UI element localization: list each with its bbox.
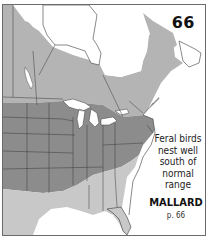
plate-number: 66 — [172, 13, 195, 32]
species-name: MALLARD — [143, 196, 206, 209]
range-map-plate: 66 Feral birds nest well south of normal… — [2, 4, 206, 236]
note-line: nest well — [151, 145, 205, 157]
note-line: Feral birds — [151, 133, 205, 145]
note-line: normal range — [151, 168, 205, 191]
page-reference: p. 66 — [143, 211, 206, 220]
feral-birds-note: Feral birds nest well south of normal ra… — [151, 133, 205, 191]
note-line: south of — [151, 156, 205, 168]
